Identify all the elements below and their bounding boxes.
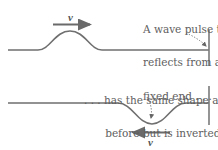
top-velocity-label: v: [68, 11, 73, 23]
top-caption-line: A wave pulse that: [143, 24, 218, 35]
top-caption-line: reflects from a: [143, 57, 218, 68]
bottom-caption-line: before but is inverted.: [84, 128, 218, 139]
bottom-caption-line: . . . has the same shape as: [84, 95, 218, 106]
bottom-caption: . . . has the same shape as before but i…: [84, 72, 218, 150]
